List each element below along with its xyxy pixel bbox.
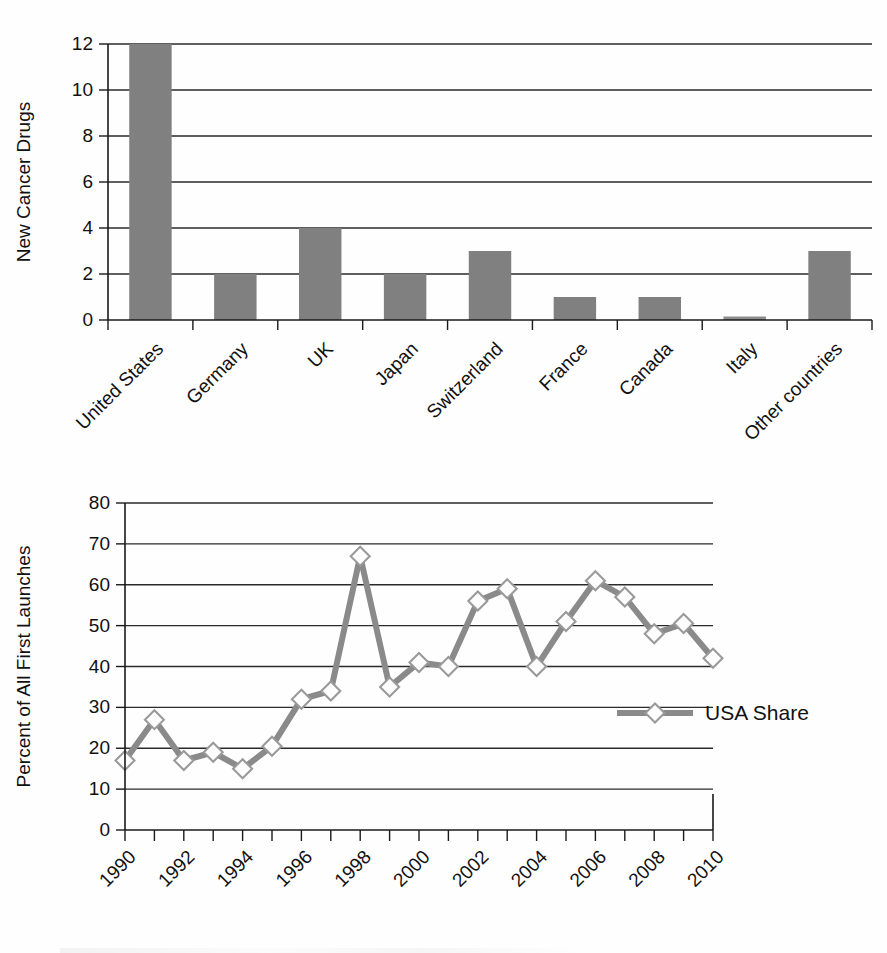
- line-chart-svg: 01020304050607080 1990199219941996199820…: [0, 455, 887, 953]
- line-chart-markers: [116, 547, 723, 779]
- line-chart-x-tick-label: 2004: [507, 846, 552, 891]
- bar-chart-bar: [129, 44, 171, 320]
- bar-chart-bar: [808, 251, 850, 320]
- line-chart-x-tick-label: 1996: [271, 846, 316, 891]
- bar-chart-y-ticks: [99, 44, 108, 320]
- line-chart-y-ticks: [116, 503, 125, 830]
- bar-chart-category-label: Japan: [370, 338, 421, 389]
- bar-chart-bar: [639, 297, 681, 320]
- bar-chart-category-label: France: [535, 338, 592, 395]
- line-chart-x-tick-label: 1994: [213, 846, 258, 891]
- bar-chart-y-axis-title: New Cancer Drugs: [13, 102, 34, 263]
- bar-chart-y-tick-label: 12: [72, 33, 93, 54]
- line-chart-data-point: [498, 579, 517, 598]
- bar-chart-category-label: UK: [304, 338, 338, 372]
- bar-chart-y-tick-label: 8: [82, 125, 93, 146]
- line-chart-y-tick-label: 80: [89, 492, 110, 513]
- legend-diamond-marker-icon: [646, 704, 665, 723]
- bar-chart-y-tick-labels: 024681012: [72, 33, 94, 330]
- line-chart-x-tick-label: 1992: [154, 846, 199, 891]
- line-chart-y-tick-label: 60: [89, 574, 110, 595]
- figure-container: 024681012 United StatesGermanyUKJapanSwi…: [0, 0, 887, 953]
- line-chart-x-ticks: [125, 830, 713, 841]
- line-chart-y-tick-label: 40: [89, 656, 110, 677]
- line-chart-y-tick-label: 50: [89, 615, 110, 636]
- bar-chart-category-label: Germany: [182, 338, 252, 408]
- line-chart-data-point: [351, 547, 370, 566]
- bar-chart-gridlines: [108, 44, 872, 274]
- line-chart-data-point: [321, 682, 340, 701]
- bar-chart-bar: [384, 274, 426, 320]
- line-chart-y-tick-label: 30: [89, 696, 110, 717]
- line-chart-y-tick-label: 70: [89, 533, 110, 554]
- legend-series-label: USA Share: [705, 701, 809, 724]
- bar-chart-bar: [299, 228, 341, 320]
- line-chart-x-tick-label: 2002: [448, 846, 493, 891]
- line-chart-x-tick-labels: 1990199219941996199820002002200420062008…: [95, 846, 728, 891]
- line-chart-y-tick-label: 20: [89, 737, 110, 758]
- line-chart-panel: 01020304050607080 1990199219941996199820…: [0, 455, 887, 953]
- line-chart-y-tick-label: 10: [89, 778, 110, 799]
- line-chart-legend: USA Share: [617, 701, 809, 724]
- bar-chart-y-tick-label: 4: [82, 217, 93, 238]
- line-chart-y-axis-title: Percent of All First Launches: [13, 546, 34, 788]
- line-chart-x-tick-label: 2008: [624, 846, 669, 891]
- bar-chart-category-label: Italy: [722, 338, 762, 378]
- bar-chart-bar: [554, 297, 596, 320]
- line-chart-y-tick-label: 0: [99, 819, 110, 840]
- bar-chart-svg: 024681012 United StatesGermanyUKJapanSwi…: [0, 0, 887, 455]
- bar-chart-x-ticks: [108, 320, 872, 330]
- line-chart-x-tick-label: 2000: [389, 846, 434, 891]
- bar-chart-category-label: Canada: [615, 338, 677, 400]
- bar-chart-y-tick-label: 2: [82, 263, 93, 284]
- bar-chart-y-tick-label: 6: [82, 171, 93, 192]
- bar-chart-category-label: Switzerland: [423, 338, 507, 422]
- bar-chart-y-tick-label: 10: [72, 79, 93, 100]
- line-chart-y-tick-labels: 01020304050607080: [89, 492, 110, 840]
- bar-chart-panel: 024681012 United StatesGermanyUKJapanSwi…: [0, 0, 887, 455]
- line-chart-x-tick-label: 1998: [330, 846, 375, 891]
- line-chart-x-tick-label: 1990: [95, 846, 140, 891]
- bar-chart-category-label: United States: [72, 338, 168, 434]
- line-chart-x-tick-label: 2006: [565, 846, 610, 891]
- line-chart-data-point: [468, 592, 487, 611]
- line-chart-data-point: [439, 657, 458, 676]
- bar-chart-y-tick-label: 0: [82, 309, 93, 330]
- bar-chart-bar: [214, 274, 256, 320]
- line-chart-x-tick-label: 2010: [683, 846, 728, 891]
- bar-chart-bar: [469, 251, 511, 320]
- bar-chart-category-labels: United StatesGermanyUKJapanSwitzerlandFr…: [72, 338, 847, 445]
